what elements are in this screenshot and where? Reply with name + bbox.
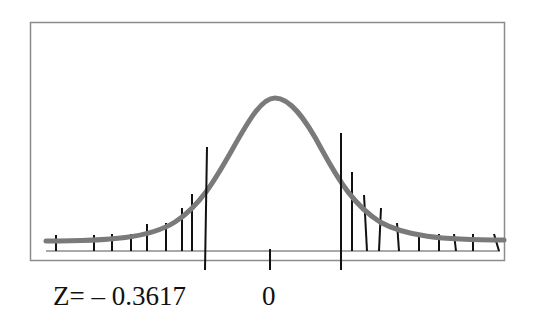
zero-label: 0 — [262, 283, 276, 310]
normal-curve — [46, 98, 504, 241]
diagram-frame — [31, 23, 505, 261]
z-value-label: Z= – 0.3617 — [53, 283, 186, 310]
